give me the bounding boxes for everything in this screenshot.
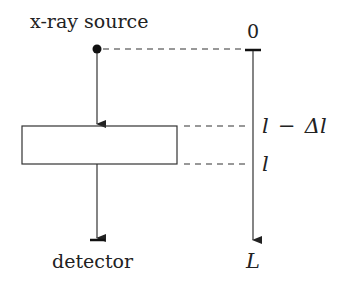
axis-label-L: L [245,249,260,273]
detector-label: detector [52,250,134,272]
axis-label-l-minus-delta-l: l − Δl [262,114,327,138]
xray-diagram: x-ray source detector 0 l − Δl l L [0,0,350,282]
axis-label-l: l [262,152,269,176]
source-label: x-ray source [30,10,148,32]
source-dot-icon [93,45,102,54]
axis-label-zero: 0 [247,20,259,42]
sample-box [22,126,177,164]
